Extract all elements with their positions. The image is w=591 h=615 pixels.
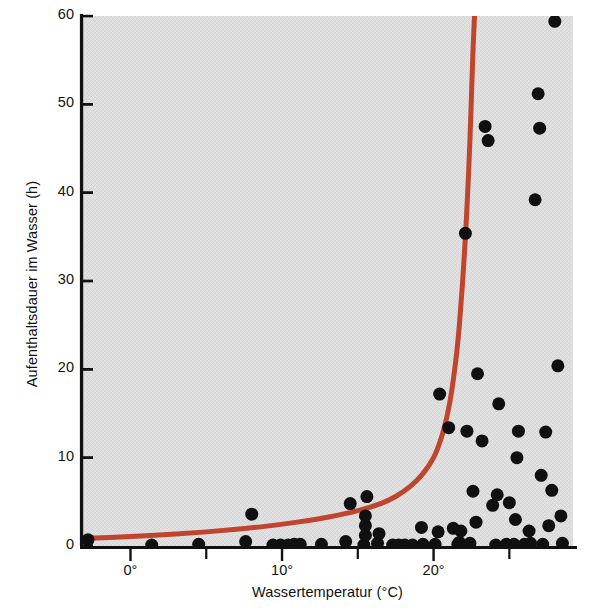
scatter-point (476, 434, 489, 447)
scatter-point (359, 509, 372, 522)
scatter-point (503, 496, 516, 509)
scatter-point (532, 87, 545, 100)
scatter-point (554, 509, 567, 522)
scatter-point (482, 134, 495, 147)
plot-area-background (82, 16, 573, 546)
scatter-point (542, 519, 555, 532)
x-axis-title: Wassertemperatur (°C) (82, 584, 573, 600)
y-tick-label: 10 (20, 448, 74, 464)
scatter-point (529, 193, 542, 206)
x-tick-label: 10° (252, 562, 312, 578)
y-tick-label: 40 (20, 183, 74, 199)
scatter-point (454, 524, 467, 537)
scatter-point (548, 15, 561, 28)
scatter-point (533, 122, 546, 135)
scatter-point (512, 425, 525, 438)
scatter-point (535, 469, 548, 482)
scatter-point (539, 426, 552, 439)
y-tick-label: 50 (20, 94, 74, 110)
scatter-point (510, 451, 523, 464)
scatter-point (82, 533, 95, 546)
scatter-point (415, 521, 428, 534)
scatter-point (466, 485, 479, 498)
scatter-plot-svg (0, 0, 591, 615)
scatter-point (545, 484, 558, 497)
x-tick-label: 20° (404, 562, 464, 578)
scatter-point (442, 421, 455, 434)
scatter-point (492, 397, 505, 410)
scatter-point (433, 388, 446, 401)
scatter-point (470, 516, 483, 529)
scatter-point (432, 525, 445, 538)
x-tick-label: 0° (100, 562, 160, 578)
scatter-point (360, 490, 373, 503)
scatter-point (523, 524, 536, 537)
scatter-point (491, 488, 504, 501)
scatter-point (344, 497, 357, 510)
y-tick-label: 20 (20, 359, 74, 375)
scatter-point (245, 508, 258, 521)
scatter-point (459, 227, 472, 240)
chart-figure: Aufenthaltsdauer im Wasser (h) Wassertem… (0, 0, 591, 615)
scatter-point (373, 527, 386, 540)
scatter-point (479, 120, 492, 133)
scatter-point (551, 359, 564, 372)
y-tick-label: 30 (20, 271, 74, 287)
scatter-point (471, 367, 484, 380)
scatter-point (509, 513, 522, 526)
y-tick-label: 0 (20, 536, 74, 552)
scatter-point (460, 425, 473, 438)
y-tick-label: 60 (20, 6, 74, 22)
